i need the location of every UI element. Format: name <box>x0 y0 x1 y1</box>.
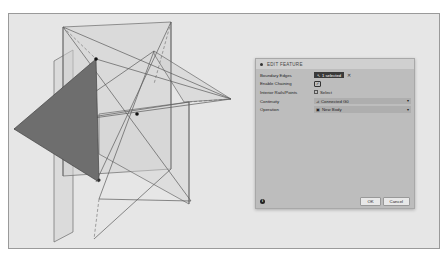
dialog-header[interactable]: EDIT FEATURE <box>256 59 414 69</box>
row-boundary-edges: Boundary Edges ↖ 1 selected ✕ <box>256 71 414 80</box>
vertex-point[interactable] <box>135 112 139 116</box>
interior-rails-select-button[interactable]: Select <box>314 90 332 95</box>
operation-label: Operation <box>256 107 314 112</box>
canvas-viewport[interactable]: EDIT FEATURE Boundary Edges ↖ 1 selected… <box>8 13 440 249</box>
continuity-value: Connected G0 <box>321 99 349 104</box>
boundary-edges-label: Boundary Edges <box>256 73 314 78</box>
chevron-down-icon: ▾ <box>407 99 409 103</box>
dialog-footer: i OK Cancel <box>256 194 414 208</box>
continuity-icon: ⊿ <box>316 99 319 104</box>
interior-rails-label: Interior Rails/Points <box>256 90 314 95</box>
plane-face[interactable] <box>99 102 189 204</box>
new-body-icon: ▣ <box>316 107 320 112</box>
continuity-label: Continuity <box>256 99 314 104</box>
row-continuity: Continuity ⊿ Connected G0 ▾ <box>256 97 414 106</box>
boundary-edges-selection[interactable]: ↖ 1 selected <box>314 72 344 78</box>
operation-value: New Body <box>322 107 342 112</box>
dialog-title: EDIT FEATURE <box>267 62 303 67</box>
vertex-point[interactable] <box>94 57 98 61</box>
chevron-down-icon: ▾ <box>407 108 409 112</box>
select-label: Select <box>320 90 332 95</box>
vertex-point[interactable] <box>97 178 100 181</box>
row-operation: Operation ▣ New Body ▾ <box>256 105 414 114</box>
continuity-dropdown[interactable]: ⊿ Connected G0 ▾ <box>314 98 411 105</box>
enable-chaining-label: Enable Chaining <box>256 81 314 86</box>
cancel-button[interactable]: Cancel <box>383 197 410 206</box>
row-interior-rails: Interior Rails/Points Select <box>256 88 414 97</box>
operation-dropdown[interactable]: ▣ New Body ▾ <box>314 106 411 113</box>
ok-button[interactable]: OK <box>360 197 380 206</box>
info-icon[interactable]: i <box>260 199 265 204</box>
edit-feature-dialog: EDIT FEATURE Boundary Edges ↖ 1 selected… <box>255 58 415 209</box>
close-icon[interactable]: ✕ <box>347 72 351 78</box>
enable-chaining-checkbox[interactable]: ✓ <box>314 81 321 88</box>
select-icon <box>314 90 318 94</box>
selection-count: 1 selected <box>322 73 341 78</box>
collapse-icon[interactable] <box>260 63 263 66</box>
check-icon: ✓ <box>316 82 319 86</box>
cursor-arrow-icon: ↖ <box>317 73 320 78</box>
row-enable-chaining: Enable Chaining ✓ <box>256 80 414 89</box>
